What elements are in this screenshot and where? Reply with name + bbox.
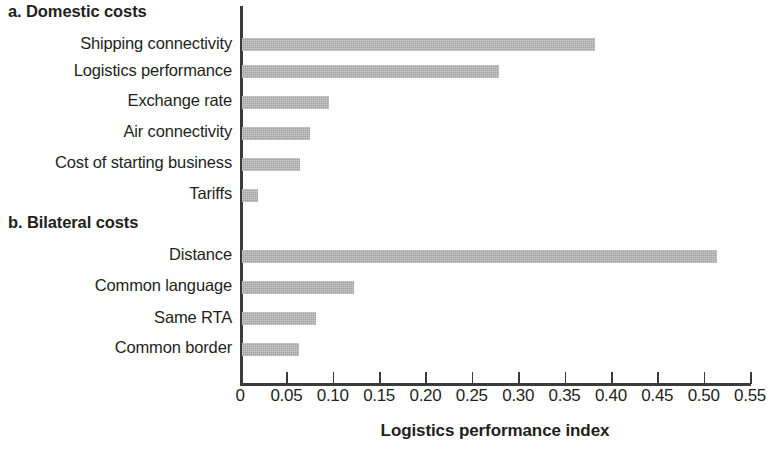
x-axis-title-text: Logistics performance index — [381, 421, 610, 440]
x-axis-tick — [286, 372, 288, 384]
panel-a-heading: a. Domestic costs — [8, 2, 147, 21]
x-axis-tick — [750, 372, 752, 384]
x-axis-tick — [704, 372, 706, 384]
bar-shipping-connectivity — [242, 38, 595, 51]
panel-b-heading: b. Bilateral costs — [8, 213, 138, 232]
plot-area — [240, 0, 774, 386]
category-label-distance: Distance — [169, 246, 232, 263]
category-label-shipping-connectivity: Shipping connectivity — [80, 35, 232, 52]
bar-air-connectivity — [242, 127, 310, 140]
category-label-exchange-rate: Exchange rate — [128, 92, 232, 109]
x-axis-tick-label: 0.30 — [502, 386, 534, 406]
x-axis-tick-label: 0.55 — [734, 386, 766, 406]
category-label-tariffs: Tariffs — [189, 185, 232, 202]
x-axis-tick — [472, 372, 474, 384]
x-axis-tick-label: 0.40 — [595, 386, 627, 406]
x-axis-tick — [611, 372, 613, 384]
bar-common-language — [242, 281, 354, 294]
bar-common-border — [242, 343, 299, 356]
bar-tariffs — [242, 189, 258, 202]
bar-same-rta — [242, 312, 316, 325]
x-axis-tick — [518, 372, 520, 384]
x-axis-tick-label: 0.20 — [410, 386, 442, 406]
x-axis-tick — [333, 372, 335, 384]
x-axis-tick-label: 0.10 — [317, 386, 349, 406]
category-label-common-border: Common border — [115, 339, 232, 356]
logistics-performance-index-chart: a. Domestic costs Shipping connectivity … — [0, 0, 774, 450]
bar-cost-of-starting-business — [242, 158, 300, 171]
bar-distance — [242, 250, 717, 263]
category-label-same-rta: Same RTA — [154, 309, 232, 326]
x-axis-tick-label: 0.15 — [363, 386, 395, 406]
category-label-logistics-performance: Logistics performance — [74, 62, 232, 79]
x-axis-tick-label: 0.05 — [270, 386, 302, 406]
x-axis-tick — [425, 372, 427, 384]
bar-exchange-rate — [242, 96, 329, 109]
x-axis-tick — [240, 372, 242, 384]
x-axis-tick — [565, 372, 567, 384]
x-axis-title: Logistics performance index — [0, 421, 774, 441]
x-axis-tick-label: 0.35 — [549, 386, 581, 406]
category-label-cost-of-starting-business: Cost of starting business — [55, 154, 232, 171]
x-axis-tick-label: 0.25 — [456, 386, 488, 406]
bar-logistics-performance — [242, 65, 499, 78]
category-label-common-language: Common language — [95, 277, 232, 294]
x-axis-tick — [379, 372, 381, 384]
category-label-air-connectivity: Air connectivity — [123, 123, 232, 140]
x-axis-tick-label: 0 — [235, 386, 244, 406]
x-axis-tick-label: 0.50 — [688, 386, 720, 406]
x-axis-tick — [657, 372, 659, 384]
x-axis-tick-label: 0.45 — [641, 386, 673, 406]
